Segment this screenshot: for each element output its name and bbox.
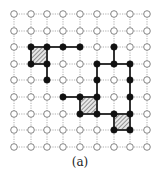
open-node xyxy=(127,11,134,18)
open-node xyxy=(111,144,118,151)
open-node xyxy=(94,127,101,134)
open-node xyxy=(11,94,18,101)
open-node xyxy=(44,28,51,35)
open-node xyxy=(28,77,35,84)
open-node xyxy=(60,28,67,35)
filled-node xyxy=(28,61,34,67)
open-node xyxy=(144,94,151,101)
open-node xyxy=(77,11,84,18)
open-node xyxy=(11,61,18,68)
open-node xyxy=(77,77,84,84)
open-node xyxy=(144,28,151,35)
open-node xyxy=(94,44,101,51)
open-node xyxy=(60,61,67,68)
open-node xyxy=(94,28,101,35)
filled-node xyxy=(44,61,50,67)
open-node xyxy=(77,144,84,151)
open-node xyxy=(111,28,118,35)
open-node xyxy=(111,77,118,84)
filled-node xyxy=(60,44,66,50)
filled-node xyxy=(60,94,66,100)
open-node xyxy=(60,127,67,134)
filled-node xyxy=(111,111,117,117)
open-node xyxy=(11,111,18,118)
open-node xyxy=(144,77,151,84)
open-node xyxy=(60,111,67,118)
filled-node xyxy=(44,77,50,83)
open-node xyxy=(11,77,18,84)
hatched-cell xyxy=(31,47,47,64)
open-node xyxy=(44,111,51,118)
open-node xyxy=(11,44,18,51)
open-node xyxy=(28,111,35,118)
open-node xyxy=(77,28,84,35)
hatched-cell xyxy=(80,97,97,114)
figure-caption: (a) xyxy=(0,155,160,169)
open-node xyxy=(127,28,134,35)
open-node xyxy=(94,144,101,151)
open-node xyxy=(28,94,35,101)
open-node xyxy=(28,127,35,134)
filled-node xyxy=(94,61,100,67)
open-node xyxy=(127,144,134,151)
open-node xyxy=(44,144,51,151)
filled-node xyxy=(111,61,117,67)
open-node xyxy=(44,11,51,18)
filled-node xyxy=(77,111,83,117)
filled-node xyxy=(94,111,100,117)
open-node xyxy=(44,127,51,134)
open-node xyxy=(144,111,151,118)
open-node xyxy=(77,61,84,68)
open-node xyxy=(77,127,84,134)
filled-node xyxy=(111,44,117,50)
filled-node xyxy=(127,94,133,100)
filled-node xyxy=(77,94,83,100)
grid-diagram xyxy=(0,0,160,155)
open-node xyxy=(28,11,35,18)
open-node xyxy=(11,11,18,18)
filled-node xyxy=(77,44,83,50)
open-node xyxy=(60,144,67,151)
open-node xyxy=(144,11,151,18)
filled-node xyxy=(94,94,100,100)
open-node xyxy=(28,144,35,151)
filled-node xyxy=(28,44,34,50)
filled-node xyxy=(94,77,100,83)
open-node xyxy=(11,127,18,134)
open-node xyxy=(11,28,18,35)
filled-node xyxy=(127,127,133,133)
filled-node xyxy=(127,77,133,83)
open-node xyxy=(44,94,51,101)
open-node xyxy=(111,94,118,101)
open-node xyxy=(60,77,67,84)
open-node xyxy=(144,144,151,151)
filled-node xyxy=(127,111,133,117)
open-node xyxy=(111,11,118,18)
open-node xyxy=(28,28,35,35)
filled-node xyxy=(44,44,50,50)
open-node xyxy=(11,144,18,151)
open-node xyxy=(144,127,151,134)
open-node xyxy=(94,11,101,18)
filled-node xyxy=(111,127,117,133)
grid-nodes xyxy=(11,11,151,151)
open-node xyxy=(60,11,67,18)
filled-node xyxy=(127,61,133,67)
open-node xyxy=(127,44,134,51)
open-node xyxy=(144,61,151,68)
open-node xyxy=(144,44,151,51)
